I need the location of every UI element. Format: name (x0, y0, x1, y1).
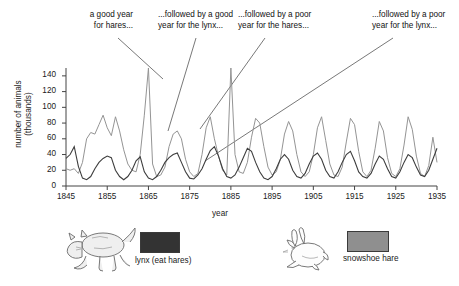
y-tick-label: 60 (32, 133, 56, 142)
x-tick-label: 1915 (340, 192, 370, 201)
legend-swatch-hare (347, 231, 389, 252)
hare-illustration (272, 222, 342, 278)
chart-figure: a good year for hares... ...followed by … (0, 0, 459, 286)
x-tick-label: 1895 (257, 192, 287, 201)
y-tick-label: 0 (32, 181, 56, 190)
x-tick-label: 1855 (92, 192, 122, 201)
y-tick-label: 100 (32, 102, 56, 111)
lynx-illustration (56, 222, 146, 278)
y-tick-label: 20 (32, 165, 56, 174)
x-tick-label: 1925 (381, 192, 411, 201)
legend-swatch-lynx (140, 232, 180, 253)
y-tick-label: 140 (32, 70, 56, 79)
x-tick-label: 1905 (298, 192, 328, 201)
x-tick-label: 1845 (51, 192, 81, 201)
y-tick-label: 80 (32, 118, 56, 127)
series-line-snowshoe-hare (66, 68, 437, 177)
x-tick-label: 1865 (133, 192, 163, 201)
legend-label-lynx: lynx (eat hares) (135, 256, 191, 265)
y-tick-label: 120 (32, 86, 56, 95)
annotation-leader-lines (118, 38, 393, 161)
legend-label-hare: snowshoe hare (343, 254, 399, 263)
y-tick-label: 40 (32, 149, 56, 158)
x-tick-label: 1885 (216, 192, 246, 201)
x-tick-label: 1875 (175, 192, 205, 201)
axes (62, 68, 437, 190)
series-line-lynx (66, 147, 437, 180)
x-tick-label: 1935 (422, 192, 452, 201)
